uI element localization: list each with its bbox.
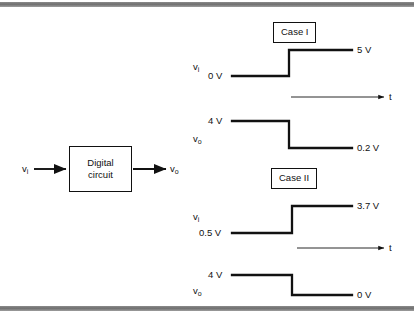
case-2-input-waveform	[232, 206, 352, 233]
digital-circuit-label-line2: circuit	[88, 169, 113, 181]
case-2-output-high-level-label: 4 V	[208, 270, 222, 280]
figure-canvas: Digital circuit vi vo Case I vi 0 V 5 V …	[0, 0, 414, 319]
case-1-output-signal-label: vo	[193, 134, 202, 144]
case-1-input-high-level-label: 5 V	[357, 45, 371, 55]
case-2-output-waveform	[232, 275, 352, 295]
digital-circuit-block: Digital circuit	[69, 146, 132, 192]
case-1-title: Case I	[281, 26, 308, 37]
case-1-output-low-level-label: 0.2 V	[357, 143, 379, 153]
case-1-input-signal-label: vi	[193, 62, 199, 72]
waveform-drawing	[0, 0, 414, 319]
case-2-title-box: Case II	[271, 168, 317, 189]
block-output-label: vo	[170, 164, 179, 174]
case-2-input-signal-label: vi	[193, 212, 199, 222]
case-2-time-axis-label: t	[389, 243, 392, 253]
case-2-input-high-level-label: 3.7 V	[357, 201, 379, 211]
case-1-input-low-level-label: 0 V	[208, 71, 222, 81]
case-1-title-box: Case I	[273, 22, 316, 43]
case-2-output-low-level-label: 0 V	[357, 290, 371, 300]
case-2-output-signal-label: vo	[193, 286, 202, 296]
block-input-label: vi	[22, 164, 28, 174]
case-1-output-waveform	[232, 121, 352, 148]
case-1-input-waveform	[232, 50, 352, 76]
case-1-time-axis-label: t	[389, 92, 392, 102]
digital-circuit-label-line1: Digital	[87, 157, 113, 169]
case-2-input-low-level-label: 0.5 V	[199, 228, 221, 238]
case-1-output-high-level-label: 4 V	[208, 116, 222, 126]
case-2-title: Case II	[279, 172, 309, 183]
